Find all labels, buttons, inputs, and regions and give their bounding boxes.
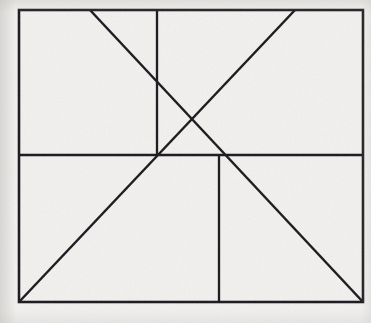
line-figure — [0, 0, 371, 323]
figure-canvas: Geometric line figure Rectangle divided … — [0, 0, 371, 323]
paper-grain-texture — [0, 0, 371, 323]
